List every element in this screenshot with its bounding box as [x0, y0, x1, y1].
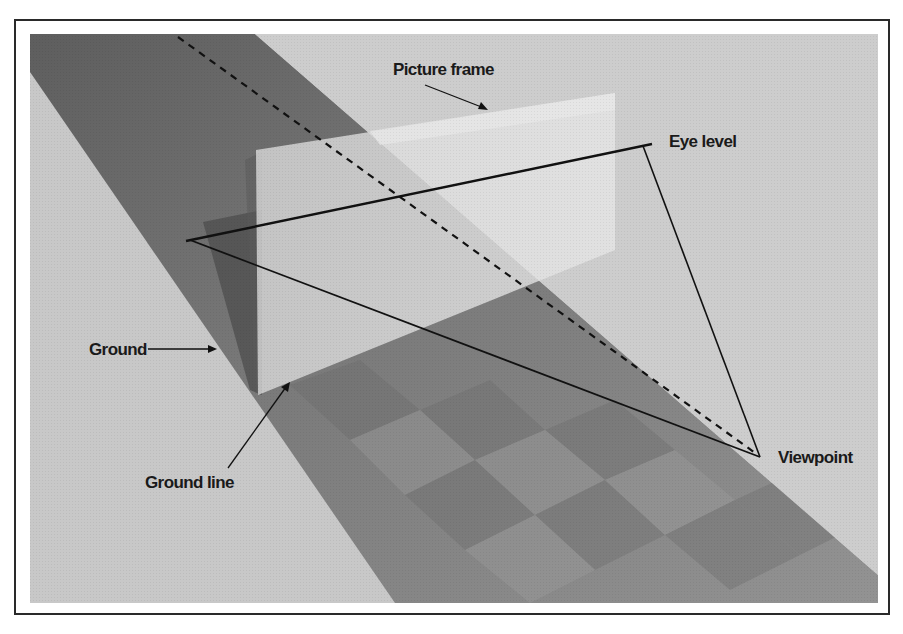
label-picture-frame: Picture frame — [393, 60, 494, 79]
label-viewpoint: Viewpoint — [778, 448, 854, 467]
label-ground-line: Ground line — [145, 473, 234, 492]
label-ground: Ground — [89, 340, 147, 359]
label-eye-level: Eye level — [669, 132, 736, 151]
perspective-diagram: Picture frame Eye level Ground Ground li… — [0, 0, 903, 634]
